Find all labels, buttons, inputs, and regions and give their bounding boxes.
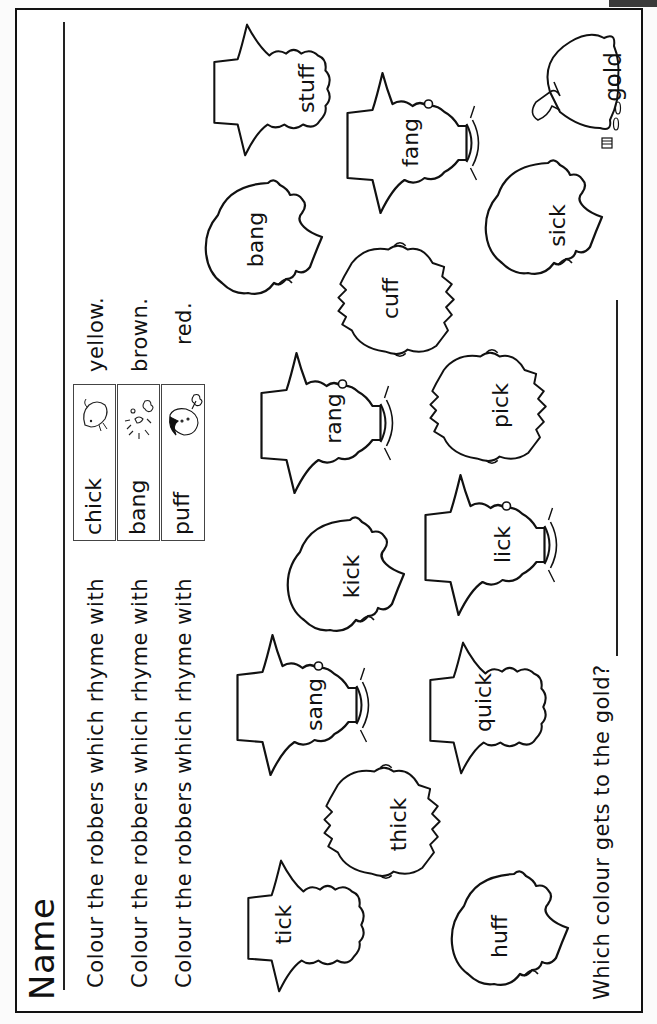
robber-sang[interactable]: sang — [230, 630, 395, 780]
robber-kick[interactable]: kick — [280, 512, 420, 642]
robber-bang[interactable]: bang — [198, 175, 338, 305]
gold-label: gold — [600, 52, 626, 102]
question-text: Which colour gets to the gold? — [590, 664, 614, 1000]
robber-word: sang — [302, 678, 327, 731]
colour-red: red. — [172, 302, 196, 345]
robber-word: thick — [386, 798, 411, 852]
colour-yellow: yellow. — [84, 297, 108, 372]
robber-sick[interactable]: sick — [478, 155, 618, 285]
robber-stuff[interactable]: stuff — [200, 20, 350, 160]
robber-word: kick — [339, 555, 364, 599]
name-writing-line[interactable] — [63, 22, 65, 990]
robber-pick[interactable]: pick — [420, 345, 560, 470]
robber-rang[interactable]: rang — [254, 348, 419, 498]
robber-word: pick — [488, 383, 513, 428]
robber-word: fang — [398, 118, 423, 167]
robber-word: quick — [471, 673, 496, 732]
chick-icon — [77, 395, 113, 435]
scan-corner-mark — [609, 0, 657, 7]
robber-lick[interactable]: lick — [418, 470, 583, 620]
robber-tick[interactable]: tick — [234, 856, 384, 996]
word-bang: bang — [125, 480, 150, 535]
word-box-chick: chick — [73, 384, 116, 541]
instruction-2-text: Colour the robbers which rhyme with — [128, 578, 152, 988]
explosion-icon — [121, 395, 157, 441]
puffing-boy-icon — [164, 391, 204, 443]
word-puff: puff — [169, 492, 194, 535]
robber-word: tick — [271, 905, 296, 945]
robber-word: rang — [321, 393, 346, 443]
robber-quick[interactable]: quick — [416, 638, 566, 778]
robber-word: sick — [545, 204, 570, 246]
instruction-1-text: Colour the robbers which rhyme with — [84, 578, 108, 988]
answer-line[interactable] — [616, 300, 618, 656]
robber-word: cuff — [378, 278, 403, 319]
colour-brown: brown. — [128, 297, 152, 372]
robber-word: stuff — [294, 64, 319, 113]
word-box-bang: bang — [117, 384, 160, 541]
name-label: Name — [22, 898, 62, 1000]
word-chick: chick — [81, 478, 106, 535]
gold-bag: gold — [520, 20, 630, 150]
robber-word: bang — [243, 212, 268, 267]
robber-word: lick — [490, 526, 515, 563]
robber-huff[interactable]: huff — [444, 866, 584, 996]
robber-word: huff — [487, 915, 512, 958]
word-box-puff: puff — [161, 384, 205, 541]
instruction-3-text: Colour the robbers which rhyme with — [172, 578, 196, 988]
